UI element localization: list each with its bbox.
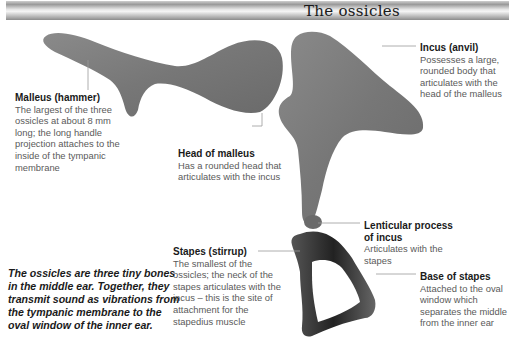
label-lenticular-process: Lenticular process of incus Articulates …: [364, 220, 464, 266]
label-stapes: Stapes (stirrup) The smallest of the oss…: [173, 246, 283, 327]
label-lenticular-process-text: Articulates with the stapes: [364, 243, 443, 266]
label-malleus: Malleus (hammer) The largest of the thre…: [15, 92, 125, 173]
label-lenticular-process-title: Lenticular process of incus: [364, 220, 464, 243]
label-head-of-malleus-text: Has a rounded head that articulates with…: [178, 160, 281, 183]
label-head-of-malleus-title: Head of malleus: [178, 148, 288, 160]
incus-bone: [279, 32, 423, 224]
label-incus-text: Possesses a large, rounded body that art…: [420, 54, 502, 100]
label-stapes-title: Stapes (stirrup): [173, 246, 283, 258]
label-malleus-title: Malleus (hammer): [15, 92, 125, 104]
label-base-of-stapes-title: Base of stapes: [420, 271, 509, 283]
label-malleus-text: The largest of the three ossicles at abo…: [15, 104, 120, 173]
label-base-of-stapes: Base of stapes Attached to the oval wind…: [420, 271, 509, 329]
label-stapes-text: The smallest of the ossicles; the neck o…: [173, 258, 281, 327]
label-incus: Incus (anvil) Possesses a large, rounded…: [420, 42, 509, 100]
label-base-of-stapes-text: Attached to the oval window which separa…: [420, 283, 507, 329]
label-incus-title: Incus (anvil): [420, 42, 509, 54]
summary-text: The ossicles are three tiny bones in the…: [8, 267, 183, 332]
label-head-of-malleus: Head of malleus Has a rounded head that …: [178, 148, 288, 183]
